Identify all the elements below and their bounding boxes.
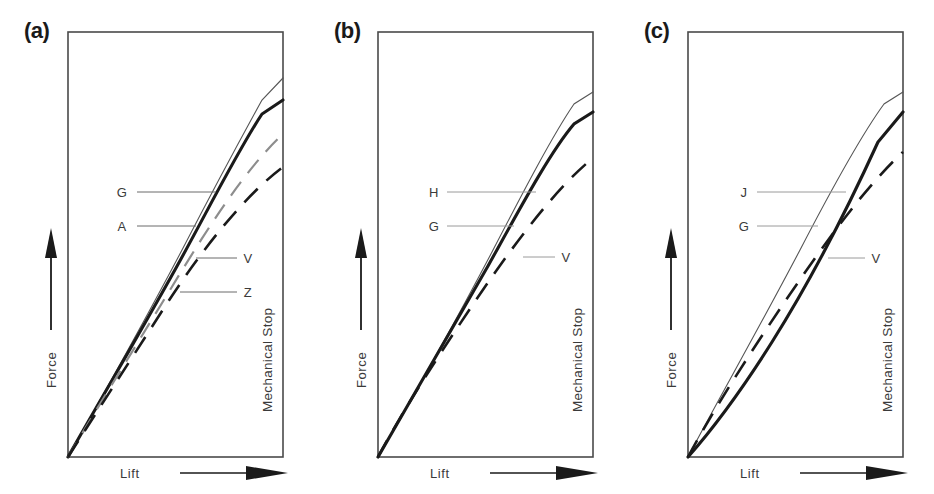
panel-b: (b) H G V Mechanical Stop Force Lift [310, 0, 621, 494]
panel-b-mechanical-stop-label: Mechanical Stop [570, 308, 585, 412]
panel-c-y-axis-label: Force [664, 352, 679, 388]
panel-c-lift-arrow-head [866, 466, 908, 480]
panel-c-plot-frame [688, 32, 903, 457]
panel-b-lift-arrow-head [556, 466, 598, 480]
panel-a-label-v: V [243, 251, 252, 266]
panel-c-plot: J G V Mechanical Stop Force Lift [620, 0, 931, 494]
panel-a-label-g: G [117, 185, 128, 200]
panel-c: (c) J G V Mechanical Stop Force Lift [620, 0, 931, 494]
panel-c-label-j: J [741, 185, 748, 200]
panel-b-force-arrow-head [355, 228, 367, 258]
panel-a-x-axis-label: Lift [120, 466, 140, 481]
panel-a-plot: G A V Z Mechanical Stop Force Lift [0, 0, 311, 494]
panel-b-x-axis-label: Lift [430, 466, 450, 481]
figure-three-panel-force-lift: (a) G A V Z Mechanical Stop [0, 0, 934, 494]
panel-c-mechanical-stop-label: Mechanical Stop [880, 308, 895, 412]
panel-b-label-h: H [429, 185, 439, 200]
panel-b-curve-v [378, 158, 593, 457]
panel-a-force-arrow-head [45, 228, 57, 258]
panel-a-y-axis-label: Force [44, 352, 59, 388]
panel-b-y-axis-label: Force [354, 352, 369, 388]
panel-a-label-z: Z [244, 285, 252, 300]
panel-a-curve-z [68, 167, 283, 457]
panel-c-x-axis-label: Lift [740, 466, 760, 481]
panel-b-plot: H G V Mechanical Stop Force Lift [310, 0, 621, 494]
panel-c-label-g: G [739, 219, 750, 234]
panel-c-label-v: V [871, 251, 880, 266]
panel-b-label-v: V [561, 250, 570, 265]
panel-a-mechanical-stop-label: Mechanical Stop [260, 308, 275, 412]
panel-b-label-g: G [429, 219, 440, 234]
panel-c-force-arrow-head [665, 228, 677, 258]
panel-a: (a) G A V Z Mechanical Stop [0, 0, 311, 494]
panel-a-label-a: A [117, 219, 126, 234]
panel-a-plot-frame [68, 32, 283, 457]
panel-a-lift-arrow-head [246, 466, 288, 480]
panel-b-plot-frame [378, 32, 593, 457]
